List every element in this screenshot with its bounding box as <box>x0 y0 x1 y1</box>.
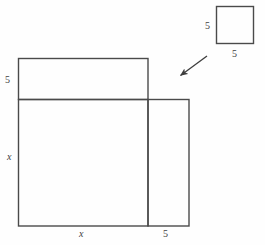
right-strip-shape <box>148 100 189 227</box>
core-square-bottom-label: x <box>79 229 83 239</box>
top-strip-shape <box>19 59 149 100</box>
core-square-shape <box>19 100 149 227</box>
arrow-shaft <box>181 56 208 76</box>
small-square-shape <box>217 7 254 44</box>
core-square-left-label: x <box>7 152 11 162</box>
figure-canvas <box>0 0 265 245</box>
small-square-left-label: 5 <box>205 21 210 31</box>
geometry-figure: 5 5 5 x x 5 <box>0 0 265 245</box>
small-square-bottom-label: 5 <box>232 49 237 59</box>
top-strip-left-label: 5 <box>5 75 10 85</box>
right-strip-bottom-label: 5 <box>163 229 168 239</box>
